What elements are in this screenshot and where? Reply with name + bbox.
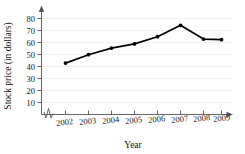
data-point (64, 61, 68, 65)
data-point (133, 42, 137, 46)
data-point (202, 37, 206, 41)
data-point (156, 35, 160, 39)
data-point (87, 53, 91, 57)
y-tick-labels: 80 70 60 50 40 30 20 10 (27, 14, 36, 108)
x-tick-label: 2006 (148, 113, 166, 125)
y-tick-label: 10 (27, 98, 36, 108)
y-axis-arrow-icon (39, 6, 44, 13)
gridlines (41, 19, 232, 103)
y-axis-title: Stock price (in dollars) (3, 22, 14, 109)
series-line (66, 25, 222, 63)
axis-break-zigzag-icon (44, 109, 53, 119)
y-tick-label: 30 (27, 74, 36, 84)
x-axis-title: Year (124, 140, 142, 150)
line-chart: 80 70 60 50 40 30 20 10 (0, 0, 245, 154)
y-tick-label: 20 (27, 86, 36, 96)
data-point (179, 23, 183, 27)
x-tick-label: 2004 (102, 114, 121, 126)
x-tick-label: 2005 (125, 114, 143, 126)
y-tick-label: 60 (27, 38, 36, 48)
data-point (110, 46, 114, 50)
data-series-stock-price (64, 23, 224, 65)
y-tick-label: 70 (27, 26, 36, 36)
y-tick-label: 80 (27, 14, 36, 24)
x-tick-label: 2003 (79, 115, 97, 127)
x-tick-label: 2009 (213, 112, 231, 124)
x-tick-label: 2002 (56, 116, 74, 128)
y-tick-label: 40 (27, 62, 36, 72)
y-tick-label: 50 (27, 50, 36, 60)
y-tick-marks (38, 19, 42, 103)
chart-canvas: 80 70 60 50 40 30 20 10 (0, 0, 245, 154)
y-axis (39, 6, 44, 115)
x-tick-label: 2008 (193, 112, 211, 124)
data-point (220, 38, 224, 42)
x-tick-label: 2007 (171, 113, 189, 125)
